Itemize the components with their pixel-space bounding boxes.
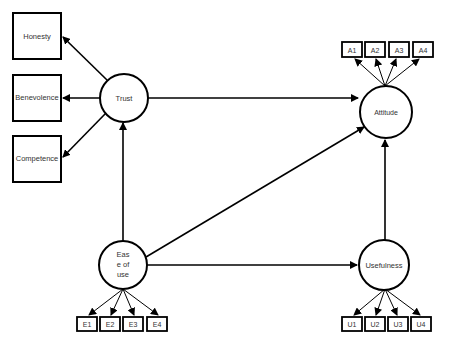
svg-text:E4: E4 (153, 321, 162, 328)
indicator-e1: E1 (77, 317, 97, 331)
trust-construct: Trust (100, 74, 148, 122)
indicator-u4: U4 (411, 317, 431, 331)
svg-text:E3: E3 (129, 321, 138, 328)
svg-text:U2: U2 (371, 321, 380, 328)
svg-text:U4: U4 (417, 321, 426, 328)
trust-label: Trust (116, 94, 134, 103)
usefulness-construct: Usefulness (359, 240, 409, 290)
svg-text:A3: A3 (395, 47, 404, 54)
honesty-box: Honesty (13, 13, 61, 59)
ease-of-use-label-line2: e of (117, 260, 130, 269)
benevolence-box: Benevolence (13, 75, 61, 121)
indicator-u2: U2 (365, 317, 385, 331)
benevolence-label: Benevolence (15, 93, 58, 102)
attitude-construct: Attitude (360, 86, 412, 138)
usefulness-label: Usefulness (365, 261, 402, 270)
ease-indicator-paths (89, 289, 158, 315)
svg-text:E2: E2 (106, 321, 115, 328)
path-trust-competence (63, 113, 106, 157)
indicator-a1: A1 (342, 42, 362, 57)
competence-label: Competence (16, 154, 59, 163)
ease-of-use-construct: Eas e of use (99, 241, 147, 289)
ease-of-use-label-line1: Eas (117, 250, 130, 259)
path-ease-attitude (146, 127, 364, 257)
svg-text:E1: E1 (83, 321, 92, 328)
attitude-label: Attitude (374, 109, 398, 116)
indicator-e2: E2 (100, 317, 120, 331)
svg-text:U3: U3 (394, 321, 403, 328)
indicator-u3: U3 (388, 317, 408, 331)
sem-diagram: Honesty Benevolence Competence A1 A2 A3 (0, 0, 449, 347)
svg-text:A4: A4 (419, 47, 428, 54)
indicator-e4: E4 (147, 317, 167, 331)
svg-text:U1: U1 (348, 321, 357, 328)
path-trust-honesty (63, 37, 107, 80)
indicator-a4: A4 (413, 42, 433, 57)
attitude-indicator-paths (355, 59, 419, 86)
ease-of-use-label-line3: use (117, 270, 129, 279)
indicator-a2: A2 (365, 42, 385, 57)
indicator-u1: U1 (342, 317, 362, 331)
svg-text:A1: A1 (348, 47, 357, 54)
usefulness-indicator-paths (354, 289, 420, 315)
competence-box: Competence (13, 136, 61, 182)
honesty-label: Honesty (23, 32, 51, 41)
svg-text:A2: A2 (371, 47, 380, 54)
indicator-e3: E3 (123, 317, 143, 331)
indicator-a3: A3 (389, 42, 409, 57)
